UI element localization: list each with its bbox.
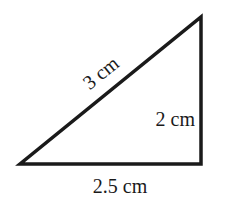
vertical-side-label: 2 cm bbox=[156, 108, 196, 130]
triangle-diagram: 3 cm 2 cm 2.5 cm bbox=[0, 0, 225, 208]
base-label: 2.5 cm bbox=[93, 175, 148, 197]
right-triangle bbox=[20, 17, 201, 164]
